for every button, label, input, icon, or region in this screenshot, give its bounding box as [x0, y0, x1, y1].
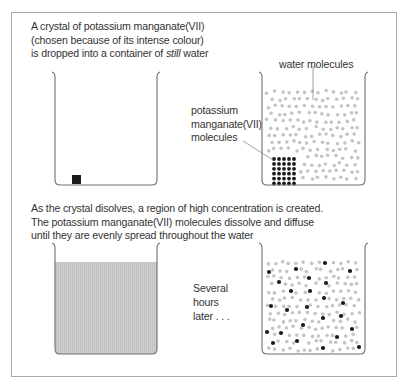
water-molecule [327, 284, 331, 288]
water-molecule [288, 334, 292, 338]
kmno4-molecule [294, 267, 298, 271]
water-molecule [324, 105, 328, 109]
water-molecule [329, 128, 333, 132]
water-molecule [340, 326, 344, 330]
water-molecule [289, 319, 293, 323]
water-molecule [277, 141, 281, 145]
water-molecule [339, 175, 343, 179]
water-molecule [288, 277, 292, 281]
kmno4-molecule [292, 162, 296, 166]
water-molecule [332, 275, 336, 279]
beaker-diffused [259, 243, 368, 354]
water-molecule [316, 148, 320, 152]
water-molecule [327, 297, 331, 301]
water-molecule [324, 132, 328, 136]
kmno4-molecule [272, 177, 276, 181]
water-molecule [350, 96, 354, 100]
water-molecule [272, 274, 276, 278]
water-molecule [355, 341, 359, 345]
water-molecule [313, 312, 317, 316]
kmno4-molecule [282, 157, 286, 161]
water-molecule [265, 92, 269, 96]
water-molecules-dots [266, 260, 362, 353]
water-molecule [280, 104, 284, 108]
water-molecule [271, 297, 275, 301]
water-molecule [292, 139, 296, 143]
water-molecule [284, 97, 288, 101]
water-molecule [270, 282, 274, 286]
kmno4-molecule [272, 157, 276, 161]
water-molecule [324, 120, 328, 124]
kmno4-molecule [335, 335, 339, 339]
kmno4-molecule [321, 316, 325, 320]
water-molecule [336, 142, 340, 146]
water-molecule [308, 349, 312, 353]
water-molecule [339, 135, 343, 139]
water-molecule [331, 105, 335, 109]
water-molecule [332, 90, 336, 94]
water-molecule [273, 89, 277, 93]
water-molecule [302, 120, 306, 124]
water-molecule [353, 104, 357, 108]
water-molecule [339, 319, 343, 323]
water-molecule [318, 132, 322, 136]
water-molecule [282, 320, 286, 324]
water-molecule [285, 326, 289, 330]
water-molecule [299, 267, 303, 271]
water-molecule [276, 127, 280, 131]
water-molecule [273, 291, 277, 295]
kmno4-molecule [292, 177, 296, 181]
water-molecule [326, 142, 330, 146]
water-molecule [291, 325, 295, 329]
water-molecule [306, 169, 310, 173]
water-molecule [286, 262, 290, 266]
kmno4-molecule [323, 261, 327, 265]
water-molecule [331, 334, 335, 338]
water-molecule [338, 148, 342, 152]
water-molecule [343, 341, 347, 345]
dissolved-solution-fill [55, 262, 157, 354]
water-molecule [353, 304, 357, 308]
kmno4-molecule [269, 304, 273, 308]
water-molecule [265, 117, 269, 121]
kmno4-molecule [295, 339, 299, 343]
water-molecule [349, 296, 353, 300]
water-molecule [344, 90, 348, 94]
water-molecule [355, 268, 359, 272]
water-molecule [320, 112, 324, 116]
water-molecule [282, 289, 286, 293]
water-molecule [343, 282, 347, 286]
water-molecule [345, 132, 349, 136]
water-molecule [354, 149, 358, 153]
water-molecule [273, 347, 277, 351]
water-molecule [295, 333, 299, 337]
water-molecule [346, 120, 350, 124]
water-molecule [303, 275, 307, 279]
water-molecule [314, 98, 318, 102]
beaker-crystal-dropped [52, 72, 160, 185]
water-molecule [315, 120, 319, 124]
kmno4-molecule [282, 172, 286, 176]
water-molecule [334, 326, 338, 330]
water-molecule [296, 118, 300, 122]
water-molecule [307, 341, 311, 345]
water-molecule [303, 163, 307, 167]
kmno4-molecule [357, 345, 361, 349]
water-molecule [267, 134, 271, 138]
water-molecule [356, 170, 360, 174]
water-molecule [268, 317, 272, 321]
water-molecule [353, 275, 357, 279]
water-molecule [332, 289, 336, 293]
water-molecule [343, 141, 347, 145]
kmno4-molecule [308, 289, 312, 293]
water-molecule [331, 349, 335, 353]
water-molecule [298, 97, 302, 101]
water-molecule [302, 334, 306, 338]
water-molecule [304, 284, 308, 288]
water-molecule [307, 111, 311, 115]
water-molecule [310, 135, 314, 139]
water-molecule [344, 334, 348, 338]
kmno4-molecule [287, 167, 291, 171]
water-molecule [324, 175, 328, 179]
water-molecule [321, 140, 325, 144]
